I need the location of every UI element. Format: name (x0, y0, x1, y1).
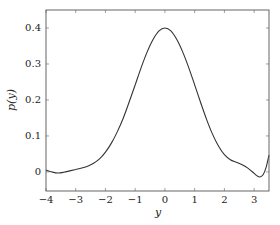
y-axis-ticks: 00.10.20.30.4 (25, 22, 269, 177)
x-tick-label: −1 (128, 194, 143, 205)
x-tick-label: −4 (39, 194, 54, 205)
x-tick-label: 1 (191, 194, 197, 205)
plot-frame (46, 10, 269, 191)
x-tick-label: 2 (221, 194, 227, 205)
y-tick-label: 0.4 (25, 22, 41, 33)
x-tick-label: 0 (162, 194, 168, 205)
y-tick-label: 0 (35, 166, 41, 177)
density-curve (46, 28, 269, 177)
y-tick-label: 0.3 (25, 58, 41, 69)
x-tick-label: −2 (98, 194, 113, 205)
line-chart: 00.10.20.30.4 −4−3−2−10123 y p(y) (0, 0, 280, 225)
x-tick-label: 3 (251, 194, 257, 205)
y-tick-label: 0.2 (25, 94, 41, 105)
x-axis-ticks: −4−3−2−10123 (39, 10, 258, 205)
x-axis-label: y (154, 206, 162, 219)
x-tick-label: −3 (68, 194, 83, 205)
y-axis-label: p(y) (5, 89, 18, 111)
y-tick-label: 0.1 (25, 130, 41, 141)
